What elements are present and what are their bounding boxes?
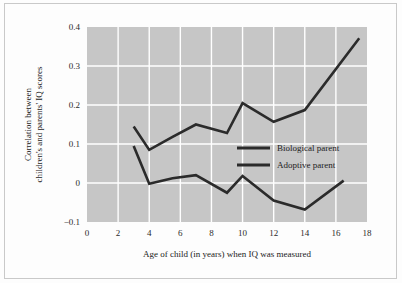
x-tick-label: 6 — [178, 228, 183, 238]
figure-container: 024681012141618−0.100.10.20.30.4Age of c… — [0, 0, 402, 283]
x-tick-label: 2 — [116, 228, 121, 238]
y-tick-label: 0.2 — [69, 100, 80, 110]
x-axis-tick-labels: 024681012141618 — [85, 228, 372, 238]
y-axis-title-line: children's and parents' IQ scores — [34, 66, 44, 183]
x-tick-label: 14 — [300, 228, 310, 238]
y-tick-label: 0.3 — [69, 61, 81, 71]
x-tick-label: 4 — [147, 228, 152, 238]
y-axis-tick-labels: −0.100.10.20.30.4 — [64, 22, 81, 227]
y-tick-label: 0.4 — [69, 22, 81, 32]
line-chart: 024681012141618−0.100.10.20.30.4Age of c… — [0, 0, 402, 283]
y-tick-label: −0.1 — [64, 217, 80, 227]
legend-label-biological-parent: Biological parent — [277, 143, 340, 153]
x-tick-label: 12 — [269, 228, 278, 238]
y-tick-label: 0 — [76, 178, 81, 188]
legend-label-adoptive-parent: Adoptive parent — [277, 160, 336, 170]
x-tick-label: 0 — [85, 228, 90, 238]
y-axis-title-line: Correlation between — [23, 87, 33, 161]
x-tick-label: 10 — [238, 228, 248, 238]
x-tick-label: 16 — [331, 228, 341, 238]
x-tick-label: 18 — [363, 228, 373, 238]
x-tick-label: 8 — [209, 228, 214, 238]
x-axis-title: Age of child (in years) when IQ was meas… — [143, 249, 311, 259]
y-tick-label: 0.1 — [69, 139, 80, 149]
